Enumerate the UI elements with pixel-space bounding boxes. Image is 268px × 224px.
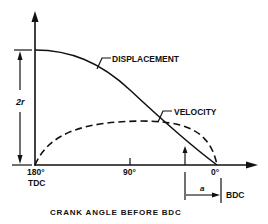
tdc-label: TDC bbox=[28, 178, 45, 188]
y-axis-arrow-icon bbox=[32, 11, 39, 22]
a-label: a bbox=[200, 184, 205, 193]
y-axis bbox=[32, 11, 39, 166]
bdc-angle-label: 0° bbox=[211, 167, 220, 177]
stroke-dimension bbox=[12, 50, 32, 165]
tdc-angle-label: 180° bbox=[27, 167, 45, 177]
mid-angle-label: 90° bbox=[123, 167, 136, 177]
stroke-label: 2r bbox=[15, 97, 25, 107]
velocity-label: VELOCITY bbox=[174, 107, 217, 117]
x-axis-title: CRANK ANGLE BEFORE BDC bbox=[50, 208, 182, 217]
displacement-height-arrow bbox=[183, 146, 188, 165]
velocity-leader bbox=[158, 111, 172, 122]
x-axis bbox=[35, 158, 258, 169]
x-axis-arrow-icon bbox=[246, 162, 258, 169]
crank-diagram: DISPLACEMENT VELOCITY 2r 180° TDC 90° 0°… bbox=[0, 0, 268, 224]
bdc-label: BDC bbox=[226, 190, 244, 200]
displacement-label: DISPLACEMENT bbox=[112, 54, 180, 64]
